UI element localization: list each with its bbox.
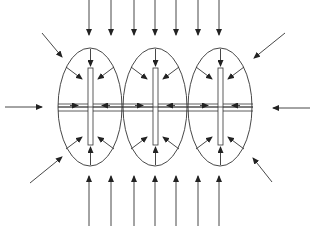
inner-arrow-upper-right <box>98 67 114 79</box>
inner-arrow-lower-left <box>131 137 147 149</box>
inner-arrow-upper-left <box>66 67 82 79</box>
inner-arrow-upper-left <box>131 67 147 79</box>
inner-arrow-upper-left <box>196 67 212 79</box>
diag-arrow-bottom-left <box>30 157 62 183</box>
vertical-bar <box>88 68 93 145</box>
inner-arrow-lower-left <box>196 137 212 149</box>
inner-arrow-lower-right <box>163 137 179 149</box>
diag-arrow-top-right <box>254 33 285 58</box>
vertical-bar <box>153 68 158 145</box>
inner-arrow-lower-right <box>98 137 114 149</box>
vertical-bars <box>58 68 253 145</box>
diag-arrow-bottom-right <box>253 158 272 182</box>
diag-arrow-top-left <box>42 33 62 57</box>
inner-arrow-lower-left <box>66 137 82 149</box>
vertical-bar <box>218 68 223 145</box>
flow-diagram <box>0 0 313 226</box>
inner-arrow-upper-right <box>228 67 244 79</box>
inner-arrow-upper-right <box>163 67 179 79</box>
inner-arrow-lower-right <box>228 137 244 149</box>
